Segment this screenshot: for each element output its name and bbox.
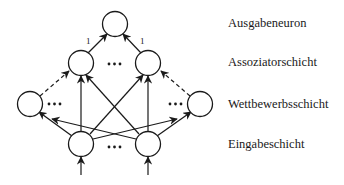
edge-comp2-assoc2-dashed <box>161 71 190 96</box>
node-output <box>103 12 128 37</box>
node-assoc-1 <box>69 51 94 76</box>
edge-input2-comp1 <box>52 119 136 139</box>
layer-label-association: Assoziatorschicht <box>228 55 317 69</box>
layer-label-input: Eingabeschicht <box>228 137 304 151</box>
edge-input2-assoc1 <box>86 75 139 134</box>
layer-label-competition: Wettbewerbsschicht <box>228 97 328 111</box>
edge-assoc2-output <box>123 34 141 53</box>
node-comp-2 <box>188 92 213 117</box>
node-assoc-2 <box>136 51 161 76</box>
ellipsis-assoc <box>108 63 122 66</box>
node-input-2 <box>136 132 161 157</box>
node-input-1 <box>69 132 94 157</box>
edge-comp1-assoc1-dashed <box>40 71 69 96</box>
ellipsis-comp-right <box>169 103 183 106</box>
ellipsis-input <box>108 146 122 149</box>
edge-input1-comp2 <box>93 119 177 139</box>
layer-label-output: Ausgabeneuron <box>228 16 306 30</box>
edge-input1-assoc2 <box>90 75 143 134</box>
edge-input2-comp2 <box>157 112 191 136</box>
node-comp-1 <box>18 92 43 117</box>
edge-input1-comp1 <box>39 112 72 136</box>
ellipsis-comp-left <box>48 103 62 106</box>
weight-label-left: 1 <box>86 36 91 46</box>
weight-label-right: 1 <box>140 36 145 46</box>
edge-assoc1-output <box>88 34 107 53</box>
